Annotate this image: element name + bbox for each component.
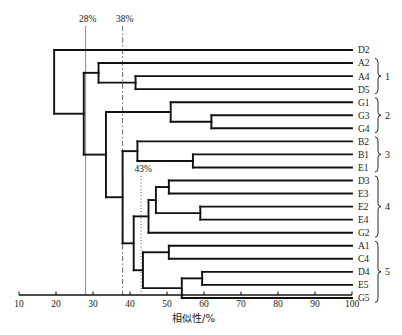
leaf-label-G4: G4 [358,124,370,134]
x-axis-tick-label-90: 90 [310,299,320,309]
leaf-label-G1: G1 [358,98,370,108]
leaf-label-A1: A1 [358,241,370,251]
leaf-label-B1: B1 [358,150,369,160]
leaf-label-E1: E1 [358,163,369,173]
cut-line-label-28: 28% [79,14,97,24]
x-axis-title: 相似性/% [172,312,215,324]
x-axis-tick-label-10: 10 [14,299,24,309]
group-bracket-1 [375,59,381,94]
leaf-label-E3: E3 [358,189,369,199]
cut-line-label-38: 38% [116,14,134,24]
group-number-2: 2 [385,110,390,121]
leaf-label-D2: D2 [358,45,370,55]
group-bracket-3 [375,137,381,172]
leaf-label-D5: D5 [358,85,370,95]
leaf-label-G3: G3 [358,111,370,121]
leaf-label-E2: E2 [358,202,369,212]
group-bracket-2 [375,98,381,133]
x-axis-tick-label-20: 20 [51,299,61,309]
group-bracket-5 [375,241,381,302]
cut-line-label-43: 43% [134,164,152,174]
x-axis-tick-label-100: 100 [345,299,360,309]
leaf-label-E5: E5 [358,280,369,290]
leaf-label-B2: B2 [358,137,369,147]
group-number-4: 4 [385,201,390,212]
group-number-5: 5 [385,266,390,277]
x-axis-tick-label-80: 80 [273,299,283,309]
x-axis-tick-label-50: 50 [162,299,172,309]
leaf-label-D4: D4 [358,267,370,277]
x-axis-tick-label-30: 30 [88,299,98,309]
x-axis-tick-label-70: 70 [236,299,246,309]
leaf-label-A4: A4 [358,72,370,82]
group-number-3: 3 [385,149,390,160]
group-bracket-4 [375,176,381,237]
dendrogram-canvas: 28%38%43%D2A2A4D5G1G3G4B2B1E1D3E3E2E4G2A… [0,0,402,335]
x-axis-tick-label-40: 40 [125,299,135,309]
leaf-label-C4: C4 [358,254,369,264]
x-axis-tick-label-60: 60 [199,299,209,309]
leaf-label-D3: D3 [358,176,370,186]
leaf-label-G2: G2 [358,228,370,238]
leaf-label-A2: A2 [358,58,370,68]
leaf-label-E4: E4 [358,215,369,225]
dendrogram-figure: 28%38%43%D2A2A4D5G1G3G4B2B1E1D3E3E2E4G2A… [0,0,402,335]
leaf-label-G5: G5 [358,293,370,303]
group-number-1: 1 [385,71,390,82]
